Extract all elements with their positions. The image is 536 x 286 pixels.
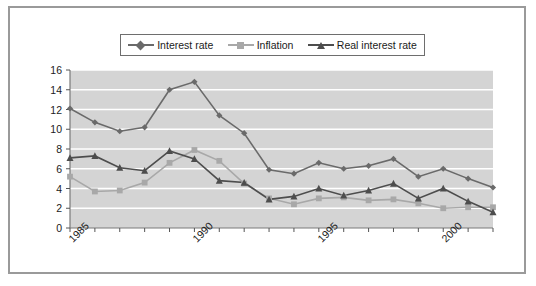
x-axis-tick-label: 1995 (315, 219, 340, 244)
y-axis-tick-label: 16 (38, 64, 62, 76)
y-axis-tick-label: 2 (38, 202, 62, 214)
chart-frame: Interest rate Inflation Real interest ra… (8, 6, 526, 274)
axis-labels-layer: 02468101214161985199019952000 (10, 8, 536, 286)
x-axis-tick-label: 1985 (66, 219, 91, 244)
y-axis-tick-label: 4 (38, 183, 62, 195)
y-axis-tick-label: 14 (38, 84, 62, 96)
x-axis-tick-label: 2000 (439, 219, 464, 244)
y-axis-tick-label: 6 (38, 163, 62, 175)
y-axis-tick-label: 10 (38, 123, 62, 135)
y-axis-tick-label: 8 (38, 143, 62, 155)
y-axis-tick-label: 12 (38, 104, 62, 116)
y-axis-tick-label: 0 (38, 222, 62, 234)
x-axis-tick-label: 1990 (190, 219, 215, 244)
